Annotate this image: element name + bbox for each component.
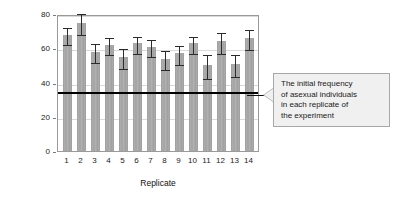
error-bar xyxy=(109,38,110,55)
error-cap-upper xyxy=(175,46,184,47)
error-bar xyxy=(81,14,82,35)
y-tick-label: 60 xyxy=(26,45,50,53)
bar xyxy=(77,23,86,151)
plot-area xyxy=(57,15,259,152)
error-cap-upper xyxy=(147,40,156,41)
error-cap-lower xyxy=(217,54,226,55)
error-cap-lower xyxy=(119,69,128,70)
error-cap-lower xyxy=(245,50,254,51)
error-bar xyxy=(221,33,222,54)
error-cap-upper xyxy=(105,38,114,39)
bar xyxy=(217,41,226,151)
y-tick-mark xyxy=(53,84,56,85)
error-cap-lower xyxy=(133,54,142,55)
error-cap-lower xyxy=(77,35,86,36)
error-cap-lower xyxy=(91,63,100,64)
error-cap-lower xyxy=(175,65,184,66)
bar-group xyxy=(175,16,184,151)
x-tick-label: 14 xyxy=(241,157,257,165)
error-cap-upper xyxy=(91,44,100,45)
error-bar xyxy=(249,30,250,51)
bar-group xyxy=(161,16,170,151)
bar-group xyxy=(147,16,156,151)
bar-group xyxy=(77,16,86,151)
bar xyxy=(105,45,114,151)
bar-group xyxy=(63,16,72,151)
error-cap-lower xyxy=(105,55,114,56)
y-tick-label: 40 xyxy=(26,80,50,88)
y-tick-mark xyxy=(53,15,56,16)
bar xyxy=(133,43,142,151)
error-bar xyxy=(67,28,68,45)
bar-series xyxy=(58,16,258,151)
error-bar xyxy=(193,37,194,54)
bar-group xyxy=(231,16,240,151)
error-cap-upper xyxy=(189,37,198,38)
error-cap-upper xyxy=(231,55,240,56)
y-tick-mark xyxy=(53,118,56,119)
bar-group xyxy=(189,16,198,151)
error-cap-upper xyxy=(203,55,212,56)
error-bar xyxy=(179,46,180,65)
error-cap-upper xyxy=(63,28,72,29)
bar-group xyxy=(105,16,114,151)
threshold-line xyxy=(58,92,258,94)
error-bar xyxy=(137,37,138,54)
error-cap-lower xyxy=(203,79,212,80)
bar-group xyxy=(133,16,142,151)
error-cap-lower xyxy=(189,54,198,55)
bar-group xyxy=(91,16,100,151)
error-cap-upper xyxy=(245,30,254,31)
error-cap-upper xyxy=(77,14,86,15)
error-bar xyxy=(207,55,208,79)
bar xyxy=(119,57,128,151)
annotation-line4: the experiment xyxy=(281,111,334,120)
bar xyxy=(175,53,184,151)
error-cap-upper xyxy=(133,37,142,38)
bar xyxy=(91,52,100,151)
bar-group xyxy=(217,16,226,151)
y-tick-label: 80 xyxy=(26,11,50,19)
x-axis-title: Replicate xyxy=(57,178,259,188)
bar xyxy=(161,59,170,151)
y-tick-mark xyxy=(53,152,56,153)
error-bar xyxy=(151,40,152,57)
error-cap-upper xyxy=(217,33,226,34)
error-bar xyxy=(165,51,166,70)
bar-group xyxy=(245,16,254,151)
error-bar xyxy=(123,49,124,70)
error-bar xyxy=(235,55,236,77)
y-tick-label: 0 xyxy=(26,148,50,156)
error-cap-lower xyxy=(231,77,240,78)
bar-group xyxy=(119,16,128,151)
error-cap-lower xyxy=(63,45,72,46)
bar-group xyxy=(203,16,212,151)
error-bar xyxy=(95,44,96,63)
error-cap-upper xyxy=(161,51,170,52)
threshold-annotation: The initial frequency of asexual individ… xyxy=(273,73,390,127)
annotation-line1: The initial frequency xyxy=(281,79,353,88)
callout-leader-line xyxy=(247,95,265,96)
bar xyxy=(147,47,156,151)
error-cap-upper xyxy=(119,49,128,50)
error-cap-lower xyxy=(161,70,170,71)
y-tick-mark xyxy=(53,49,56,50)
annotation-line2: of asexual individuals xyxy=(281,90,357,99)
figure-container: Percentage asexual after experiment 0204… xyxy=(0,0,396,206)
y-tick-label: 20 xyxy=(26,114,50,122)
annotation-line3: in each replicate of xyxy=(281,100,348,109)
error-cap-lower xyxy=(147,57,156,58)
bar xyxy=(189,43,198,151)
